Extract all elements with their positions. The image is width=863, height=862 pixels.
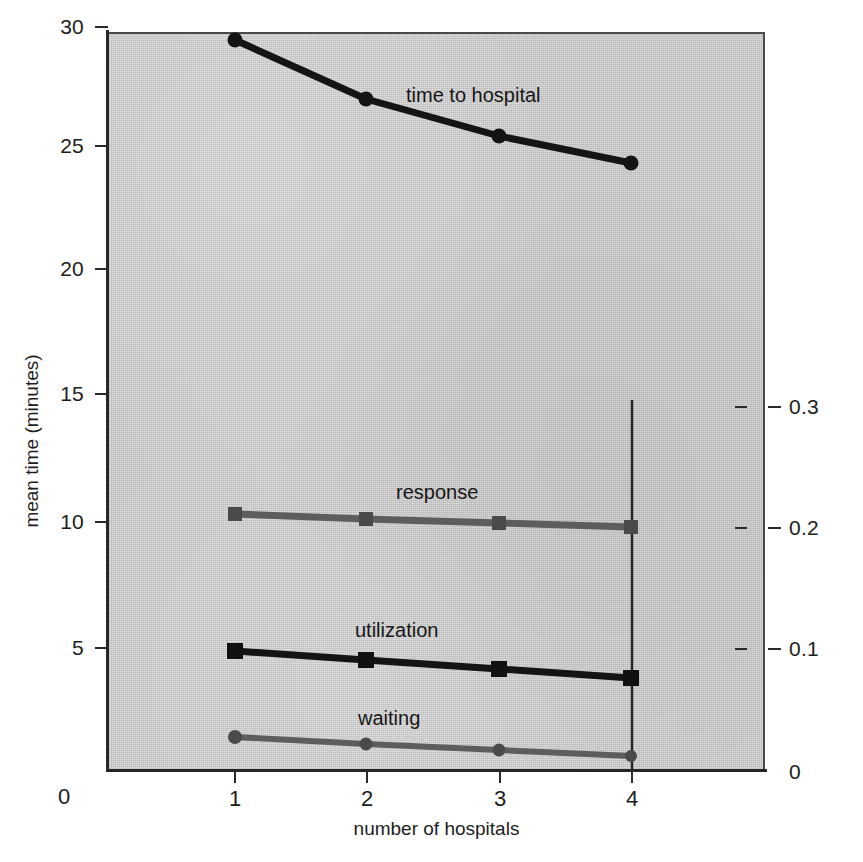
datapoint [228, 507, 242, 521]
series-waiting [228, 730, 637, 762]
datapoint [228, 33, 243, 48]
datapoint [625, 750, 637, 762]
series-label-waiting: waiting [358, 707, 420, 730]
datapoint [623, 670, 639, 686]
datapoint [359, 92, 374, 107]
datapoint [359, 512, 373, 526]
datapoint [493, 744, 506, 757]
datapoint [624, 156, 639, 171]
chart-figure: 30 25 20 15 10 5 0.3 0.2 0.1 0 1 2 3 4 0… [0, 0, 863, 862]
datapoint [228, 730, 242, 744]
series-layer [0, 0, 863, 862]
datapoint [492, 516, 506, 530]
series-label-time-to-hospital: time to hospital [406, 84, 541, 107]
datapoint [624, 520, 638, 534]
series-response [228, 507, 638, 534]
datapoint [358, 652, 374, 668]
datapoint [492, 129, 507, 144]
series-label-utilization: utilization [355, 619, 438, 642]
series-label-response: response [396, 481, 478, 504]
datapoint [227, 643, 243, 659]
datapoint [360, 738, 373, 751]
datapoint [491, 661, 507, 677]
series-utilization [227, 643, 639, 686]
